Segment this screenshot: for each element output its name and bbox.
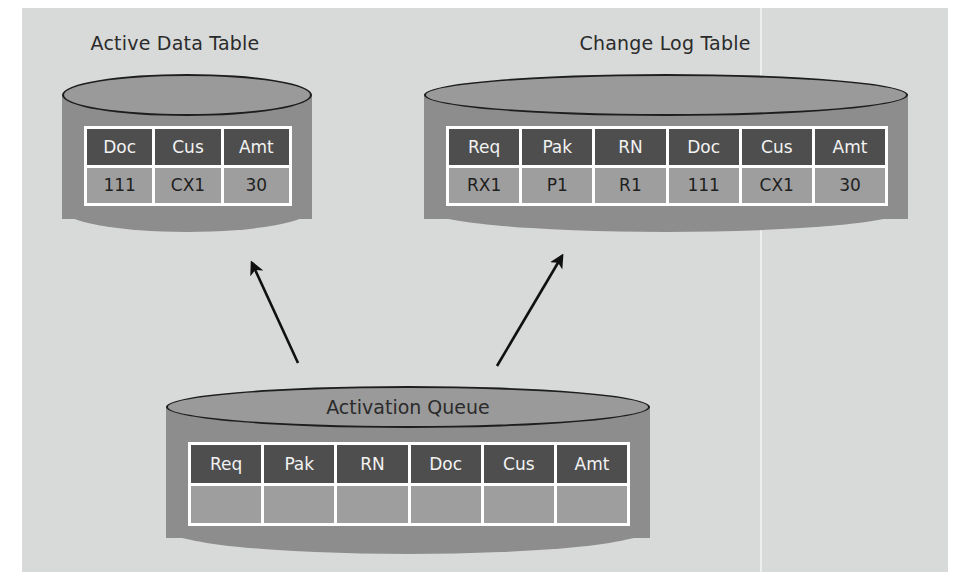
data-cell: RX1 bbox=[449, 168, 519, 204]
column-header-cell: Cus bbox=[155, 129, 220, 165]
data-cell: CX1 bbox=[742, 168, 812, 204]
column-header-cell: Amt bbox=[224, 129, 289, 165]
active-data-table-cylinder: Doc Cus Amt 111 CX1 30 bbox=[62, 74, 312, 239]
column-header-cell: Amt bbox=[557, 445, 627, 483]
table-row: 111 CX1 30 bbox=[87, 168, 289, 204]
column-header-cell: Doc bbox=[411, 445, 481, 483]
change-log-table-title: Change Log Table bbox=[550, 32, 780, 54]
diagram-canvas-frame: Active Data Table Doc Cus Amt 111 CX1 30… bbox=[0, 0, 969, 587]
data-cell: CX1 bbox=[155, 168, 220, 204]
data-cell: 111 bbox=[87, 168, 152, 204]
arrow-queue-to-active-data-table bbox=[252, 263, 298, 363]
data-cell bbox=[484, 486, 554, 524]
active-data-table-title: Active Data Table bbox=[60, 32, 290, 54]
column-header-cell: RN bbox=[337, 445, 407, 483]
table-row bbox=[191, 486, 627, 524]
cylinder-top-cap bbox=[424, 74, 908, 116]
column-header-cell: RN bbox=[595, 129, 665, 165]
diagram-canvas: Active Data Table Doc Cus Amt 111 CX1 30… bbox=[22, 8, 948, 572]
column-header-cell: Amt bbox=[815, 129, 885, 165]
activation-queue-title: Activation Queue bbox=[166, 396, 650, 418]
table-header-row: Doc Cus Amt bbox=[87, 129, 289, 165]
table-row: RX1 P1 R1 111 CX1 30 bbox=[449, 168, 885, 204]
table-header-row: Req Pak RN Doc Cus Amt bbox=[191, 445, 627, 483]
data-cell bbox=[191, 486, 261, 524]
change-log-table-cylinder: Req Pak RN Doc Cus Amt RX1 P1 R1 111 CX1… bbox=[424, 74, 908, 239]
column-header-cell: Doc bbox=[87, 129, 152, 165]
column-header-cell: Cus bbox=[484, 445, 554, 483]
column-header-cell: Cus bbox=[742, 129, 812, 165]
column-header-cell: Doc bbox=[669, 129, 739, 165]
data-cell bbox=[264, 486, 334, 524]
data-cell: 30 bbox=[815, 168, 885, 204]
cylinder-top-cap bbox=[62, 74, 312, 116]
data-cell: 30 bbox=[224, 168, 289, 204]
data-cell: 111 bbox=[669, 168, 739, 204]
column-header-cell: Req bbox=[191, 445, 261, 483]
arrow-queue-to-change-log-table bbox=[497, 256, 562, 366]
column-header-cell: Pak bbox=[522, 129, 592, 165]
active-data-table-grid: Doc Cus Amt 111 CX1 30 bbox=[84, 126, 292, 206]
data-cell bbox=[337, 486, 407, 524]
change-log-table-grid: Req Pak RN Doc Cus Amt RX1 P1 R1 111 CX1… bbox=[446, 126, 888, 206]
column-header-cell: Req bbox=[449, 129, 519, 165]
data-cell: R1 bbox=[595, 168, 665, 204]
column-header-cell: Pak bbox=[264, 445, 334, 483]
data-cell bbox=[557, 486, 627, 524]
data-cell: P1 bbox=[522, 168, 592, 204]
activation-queue-cylinder: Activation Queue Req Pak RN Doc Cus Amt bbox=[166, 386, 650, 566]
table-header-row: Req Pak RN Doc Cus Amt bbox=[449, 129, 885, 165]
activation-queue-grid: Req Pak RN Doc Cus Amt bbox=[188, 442, 630, 526]
data-cell bbox=[411, 486, 481, 524]
